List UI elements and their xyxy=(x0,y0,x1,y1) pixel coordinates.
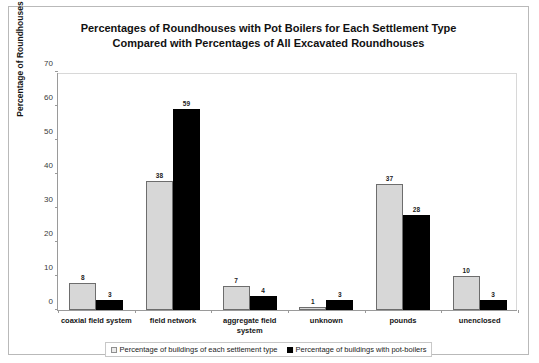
bar-group-bars: 103 xyxy=(441,73,518,310)
bar[interactable] xyxy=(223,286,250,310)
bar-value-label: 4 xyxy=(261,287,265,294)
bar[interactable] xyxy=(326,300,353,310)
bar[interactable] xyxy=(146,181,173,310)
bar-slot: 1 xyxy=(299,73,326,310)
bar-value-label: 3 xyxy=(338,291,342,298)
x-tick-mark xyxy=(58,310,59,313)
bar-value-label: 8 xyxy=(81,274,85,281)
bar-value-label: 37 xyxy=(386,175,393,182)
y-axis-title: Percentage of Roundhouses xyxy=(15,0,25,139)
chart-title-line-1: Percentages of Roundhouses with Pot Boil… xyxy=(9,21,528,36)
bar-slot: 8 xyxy=(69,73,96,310)
x-tick-mark xyxy=(288,310,289,313)
bar-group-bars: 83 xyxy=(58,73,135,310)
bar[interactable] xyxy=(69,283,96,310)
y-tick-label: 60 xyxy=(44,93,53,102)
x-axis-label: unknown xyxy=(288,316,365,326)
bar-group: 83coaxial field system xyxy=(58,73,135,310)
bar-group: 13unknown xyxy=(288,73,365,310)
x-tick-mark xyxy=(365,310,366,313)
bar-slot: 37 xyxy=(376,73,403,310)
x-axis-label: field network xyxy=(135,316,212,326)
chart-legend: Percentage of buildings of each settleme… xyxy=(105,342,433,357)
bar-group: 3859field network xyxy=(135,73,212,310)
chart-title: Percentages of Roundhouses with Pot Boil… xyxy=(9,21,528,51)
x-tick-mark xyxy=(135,310,136,313)
bar-group: 103unenclosed xyxy=(441,73,518,310)
y-tick-mark xyxy=(55,71,58,72)
bar-slot: 10 xyxy=(453,73,480,310)
bar-value-label: 59 xyxy=(183,100,190,107)
x-axis-label: unenclosed xyxy=(441,316,518,326)
bar-slot: 38 xyxy=(146,73,173,310)
legend-item-series-a: Percentage of buildings of each settleme… xyxy=(111,345,278,354)
bar[interactable] xyxy=(403,215,430,310)
bar-slot: 59 xyxy=(173,73,200,310)
bar-value-label: 1 xyxy=(311,298,315,305)
legend-label-series-a: Percentage of buildings of each settleme… xyxy=(120,345,278,354)
bar-slot: 3 xyxy=(96,73,123,310)
x-tick-mark xyxy=(441,310,442,313)
bar-value-label: 28 xyxy=(413,206,420,213)
bar-slot: 28 xyxy=(403,73,430,310)
x-tick-mark xyxy=(211,310,212,313)
y-tick-label: 50 xyxy=(44,127,53,136)
bar-group-bars: 3859 xyxy=(135,73,212,310)
bar-value-label: 7 xyxy=(234,277,238,284)
legend-label-series-b: Percentage of buildings with pot-boilers xyxy=(296,345,427,354)
bar-slot: 7 xyxy=(223,73,250,310)
bar-value-label: 38 xyxy=(156,172,163,179)
bar-group-bars: 13 xyxy=(288,73,365,310)
bar-slot: 4 xyxy=(250,73,277,310)
bar-slot: 3 xyxy=(480,73,507,310)
bar-group: 74aggregate field system xyxy=(211,73,288,310)
bar[interactable] xyxy=(96,300,123,310)
x-axis-label: coaxial field system xyxy=(58,316,135,326)
y-tick-label: 70 xyxy=(44,59,53,68)
x-tick-mark xyxy=(518,310,519,313)
bar-slot: 3 xyxy=(326,73,353,310)
x-axis-label: pounds xyxy=(365,316,442,326)
y-tick-label: 30 xyxy=(44,195,53,204)
bar[interactable] xyxy=(299,307,326,310)
x-axis-label: aggregate field system xyxy=(211,316,288,335)
bar[interactable] xyxy=(376,184,403,310)
legend-swatch-icon-series-b xyxy=(287,347,293,353)
bar-value-label: 3 xyxy=(108,291,112,298)
bar[interactable] xyxy=(250,296,277,310)
plot-area: 010203040506070 83coaxial field system38… xyxy=(57,73,517,311)
legend-swatch-icon-series-a xyxy=(111,347,117,353)
bar[interactable] xyxy=(453,276,480,310)
bar-group-bars: 74 xyxy=(211,73,288,310)
chart-title-line-2: Compared with Percentages of All Excavat… xyxy=(9,36,528,51)
y-tick-label: 0 xyxy=(49,297,53,306)
bar-value-label: 10 xyxy=(463,267,470,274)
y-tick-label: 10 xyxy=(44,263,53,272)
y-tick-label: 20 xyxy=(44,229,53,238)
bar-group: 3728pounds xyxy=(365,73,442,310)
bar[interactable] xyxy=(173,109,200,310)
bar[interactable] xyxy=(480,300,507,310)
legend-item-series-b: Percentage of buildings with pot-boilers xyxy=(287,345,427,354)
bar-group-bars: 3728 xyxy=(365,73,442,310)
chart-container: Percentages of Roundhouses with Pot Boil… xyxy=(8,6,529,355)
bar-value-label: 3 xyxy=(491,291,495,298)
y-tick-label: 40 xyxy=(44,161,53,170)
